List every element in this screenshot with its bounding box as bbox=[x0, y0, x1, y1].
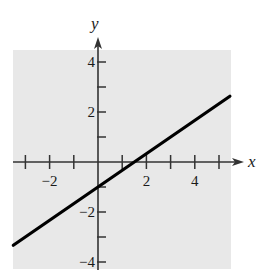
line-graph: −224 42−2−4 x y bbox=[0, 0, 261, 275]
x-tick-label: 4 bbox=[191, 173, 199, 189]
x-tick-label: 2 bbox=[143, 173, 151, 189]
x-axis-label: x bbox=[247, 152, 256, 171]
y-tick-label: 4 bbox=[88, 54, 96, 70]
y-tick-label: −4 bbox=[79, 254, 95, 270]
x-tick-label: −2 bbox=[42, 173, 58, 189]
y-axis-label: y bbox=[89, 14, 99, 33]
y-tick-label: 2 bbox=[88, 104, 96, 120]
y-tick-label: −2 bbox=[79, 204, 95, 220]
